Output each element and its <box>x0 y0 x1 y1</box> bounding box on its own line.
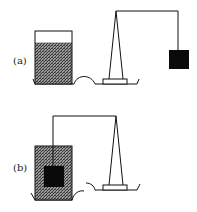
panel-label-a: (a) <box>13 56 27 66</box>
buoyancy-diagram: (a) (b) <box>0 0 197 212</box>
block-hanging-a <box>169 50 189 69</box>
arc-separator-b-left <box>72 191 84 200</box>
panel-b <box>31 116 140 200</box>
panel-label-b: (b) <box>13 163 27 173</box>
diagram-canvas <box>0 0 197 212</box>
balance-beam-a <box>116 11 178 50</box>
liquid-a <box>35 43 72 84</box>
balance-base-b <box>103 185 127 190</box>
panel-a <box>33 11 189 84</box>
balance-pillar-a <box>109 11 123 79</box>
balance-stand-a <box>103 11 178 84</box>
arc-separator-a <box>74 77 95 85</box>
block-submerged-b <box>44 166 64 187</box>
balance-base-a <box>103 79 127 84</box>
balance-pillar-b <box>109 116 123 185</box>
beaker-a <box>35 31 72 84</box>
